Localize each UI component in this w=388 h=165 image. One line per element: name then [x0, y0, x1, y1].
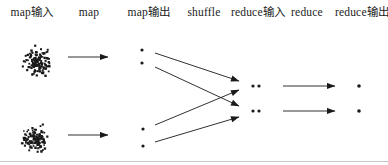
shuffle-arrow — [155, 90, 239, 125]
mapreduce-diagram: map输入 map map输出 shuffle reduce输入 reduce … — [0, 0, 388, 165]
scatter-point — [48, 65, 50, 67]
scatter-point — [21, 142, 23, 144]
scatter-point — [40, 131, 42, 133]
scatter-point — [25, 59, 27, 61]
scatter-point — [40, 62, 42, 64]
scatter-point — [46, 57, 48, 59]
shuffle-arrow — [155, 67, 239, 106]
shuffle-arrow — [155, 117, 239, 142]
scatter-point — [24, 137, 26, 139]
scatter-point — [48, 61, 50, 63]
scatter-point — [40, 60, 42, 62]
scatter-point — [43, 67, 45, 69]
scatter-point — [28, 63, 30, 65]
scatter-point — [36, 51, 38, 53]
scatter-point — [47, 49, 49, 51]
reduce-input-dot — [257, 109, 260, 112]
scatter-point — [36, 59, 38, 61]
scatter-point — [44, 63, 46, 65]
shuffle-arrow — [155, 53, 239, 81]
scatter-point — [38, 143, 40, 145]
scatter-point — [42, 69, 44, 71]
scatter-point — [31, 55, 33, 57]
scatter-point — [34, 45, 36, 47]
scatter-point — [42, 71, 44, 73]
scatter-point — [46, 136, 48, 138]
map-output-dot — [140, 61, 143, 64]
scatter-point — [26, 69, 28, 71]
scatter-point — [42, 124, 44, 126]
scatter-point — [40, 48, 42, 50]
scatter-point — [48, 71, 50, 73]
scatter-point — [32, 141, 34, 143]
scatter-point — [43, 53, 45, 55]
scatter-point — [39, 70, 41, 72]
diagram-svg — [0, 0, 388, 165]
scatter-point — [29, 56, 31, 58]
scatter-point — [23, 60, 25, 62]
scatter-point — [32, 130, 34, 132]
scatter-point — [41, 135, 43, 137]
scatter-point — [36, 141, 38, 143]
scatter-point — [35, 138, 37, 140]
map-output-dot — [141, 144, 144, 147]
scatter-point — [41, 138, 43, 140]
scatter-point — [30, 49, 32, 51]
scatter-point — [35, 54, 37, 56]
scatter-point — [31, 127, 33, 129]
scatter-point — [37, 70, 39, 72]
scatter-point — [37, 151, 39, 153]
scatter-point — [45, 60, 47, 62]
scatter-point — [36, 54, 38, 56]
scatter-point — [33, 145, 35, 147]
scatter-point — [30, 135, 32, 137]
map-output-dot — [140, 48, 143, 51]
scatter-point — [22, 65, 24, 67]
reduce-output-dot — [357, 109, 361, 113]
scatter-point — [24, 145, 26, 147]
record-dots — [140, 48, 360, 147]
scatter-point — [37, 147, 39, 149]
scatter-point — [48, 58, 50, 60]
scatter-point — [33, 138, 35, 140]
scatter-point — [45, 64, 48, 67]
cluster-input-split-1 — [22, 45, 51, 77]
scatter-point — [29, 140, 31, 142]
scatter-point — [34, 58, 36, 60]
scatter-point — [42, 149, 44, 151]
scatter-point — [34, 147, 37, 150]
scatter-point — [36, 134, 38, 136]
scatter-point — [44, 132, 46, 134]
scatter-point — [27, 54, 29, 56]
scatter-point — [40, 145, 42, 147]
scatter-point — [30, 67, 32, 69]
scatter-point — [37, 64, 39, 66]
scatter-point — [23, 130, 25, 132]
scatter-point — [28, 149, 30, 151]
input-clusters — [21, 45, 51, 153]
scatter-point — [31, 74, 33, 76]
scatter-point — [35, 129, 37, 131]
scatter-point — [34, 70, 36, 72]
scatter-point — [27, 143, 29, 145]
scatter-point — [36, 74, 38, 76]
scatter-point — [29, 145, 31, 147]
reduce-input-dot — [251, 84, 254, 87]
scatter-point — [26, 131, 28, 133]
scatter-point — [28, 129, 30, 131]
scatter-point — [44, 147, 46, 149]
scatter-point — [34, 132, 36, 134]
scatter-point — [43, 57, 45, 59]
scatter-point — [47, 51, 49, 53]
scatter-point — [39, 133, 41, 135]
scatter-point — [31, 59, 33, 61]
scatter-point — [27, 60, 29, 62]
scatter-point — [43, 142, 46, 145]
scatter-point — [32, 143, 34, 145]
cluster-input-split-2 — [21, 124, 49, 153]
reduce-output-dot — [357, 84, 361, 88]
scatter-point — [45, 67, 47, 69]
scatter-point — [32, 132, 34, 134]
scatter-point — [31, 52, 33, 54]
scatter-point — [38, 57, 40, 59]
